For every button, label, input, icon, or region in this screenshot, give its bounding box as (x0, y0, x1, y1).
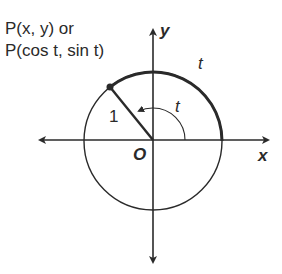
angle-label: t (175, 98, 180, 115)
point-label-line2: P(cos t, sin t) (5, 42, 104, 59)
arc-label: t (198, 55, 203, 72)
origin-label: O (133, 146, 146, 163)
x-axis-label: x (258, 147, 267, 164)
y-axis-label: y (160, 22, 169, 39)
point-p (107, 84, 114, 91)
point-label-line1: P(x, y) or (5, 20, 74, 37)
radius-label: 1 (109, 108, 118, 125)
